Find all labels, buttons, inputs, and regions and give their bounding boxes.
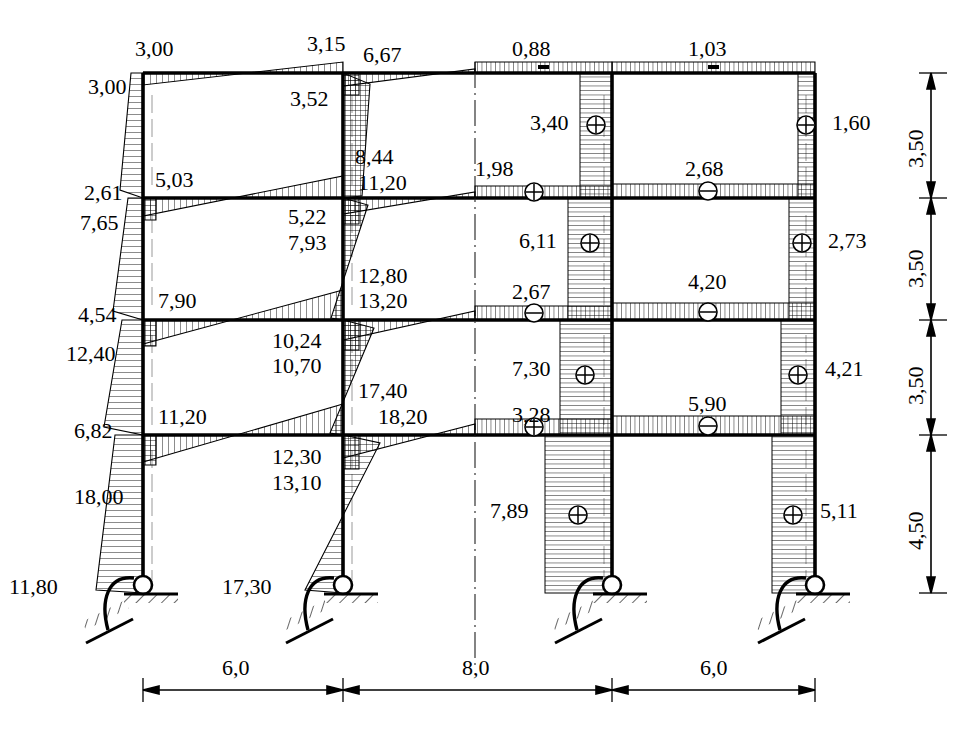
axial-col4-storey3 — [789, 198, 815, 320]
label-floor3-col2-below-a: 5,22 — [288, 206, 327, 228]
sign-col4-storey2 — [789, 366, 807, 384]
label-floor2-col1-above: 4,54 — [78, 304, 117, 326]
label-col4-storey3: 2,73 — [828, 230, 867, 252]
sign-col4-storey1 — [784, 506, 802, 524]
label-col3-storey1: 7,89 — [490, 500, 529, 522]
sign-beam-bay2-floor3 — [525, 183, 543, 201]
label-beam-bay3-floor3: 2,68 — [685, 158, 724, 180]
dim-height-2: 3,50 — [903, 250, 929, 289]
dim-height-3: 3,50 — [903, 367, 929, 406]
label-floor2-col2-below-b: 10,70 — [272, 355, 322, 377]
sign-col3-storey1 — [569, 506, 587, 524]
label-roof-beam-right-top: 3,15 — [307, 33, 346, 55]
diagram-canvas: 3,00 3,15 6,67 3,00 3,52 2,61 5,03 7,65 … — [0, 0, 974, 734]
label-roof-beam-left-top: 3,00 — [135, 38, 174, 60]
axial-col4-storey4 — [798, 73, 815, 198]
label-beam-bay2-floor2: 2,67 — [512, 281, 551, 303]
label-floor3-col2-above-a: 8,44 — [355, 146, 394, 168]
label-col3-storey3: 6,11 — [519, 230, 557, 252]
label-beam-bay3-floor2: 4,20 — [688, 271, 727, 293]
label-beam-bay2-floor3: 1,98 — [475, 158, 514, 180]
label-floor3-col1-above: 2,61 — [84, 182, 123, 204]
label-floor3-col2-above-b: 11,20 — [358, 172, 407, 194]
label-floor2-col2-below-a: 10,24 — [272, 330, 322, 352]
label-floor1-col1-above: 6,82 — [74, 420, 113, 442]
label-floor2-col2-above-b: 13,20 — [358, 290, 408, 312]
shear-beam-bay3-roof — [612, 62, 815, 73]
dim-height-1: 3,50 — [903, 130, 929, 169]
label-floor1-beam-left: 11,20 — [158, 406, 207, 428]
label-base-col1: 11,80 — [9, 576, 58, 598]
supports — [82, 576, 850, 643]
dim-height-4: 4,50 — [903, 512, 929, 551]
sign-col4-storey4 — [797, 116, 815, 134]
sign-col3-storey2 — [576, 366, 594, 384]
label-floor1-col2-below-b: 13,10 — [272, 472, 322, 494]
dim-span-2: 8,0 — [462, 655, 490, 681]
label-floor3-col1-below: 7,65 — [80, 212, 119, 234]
label-floor2-col2-above-a: 12,80 — [358, 265, 408, 287]
frame-skeleton — [143, 73, 815, 593]
sign-col3-storey3 — [581, 234, 599, 252]
label-floor1-col1-below: 18,00 — [74, 486, 124, 508]
shear-beam-bay2-roof — [475, 62, 612, 73]
sign-col4-storey3 — [793, 234, 811, 252]
label-beam-bay3-floor1: 5,90 — [688, 393, 727, 415]
dim-span-1: 6,0 — [222, 655, 250, 681]
label-col3-storey2: 7,30 — [512, 358, 551, 380]
moment-col1-storey1 — [96, 435, 143, 593]
label-floor1-col2-above-a: 17,40 — [358, 380, 408, 402]
label-base-col2: 17,30 — [222, 576, 272, 598]
label-col4-storey2: 4,21 — [825, 358, 864, 380]
label-floor3-col2-below-b: 7,93 — [288, 232, 327, 254]
label-col4-storey1: 5,11 — [820, 500, 858, 522]
label-floor2-beam-left: 7,90 — [158, 290, 197, 312]
label-floor1-col2-above-b: 18,20 — [378, 406, 428, 428]
sign-beam-bay2-floor2 — [525, 304, 543, 322]
label-roof-col1-left: 3,00 — [88, 76, 127, 98]
sign-beam-bay3-floor3 — [699, 182, 717, 200]
label-floor3-beam-left: 5,03 — [155, 169, 194, 191]
dimension-lines-horizontal — [143, 678, 815, 702]
label-beam-bay2-floor1: 3,28 — [512, 404, 551, 426]
sign-beam-bay3-floor1 — [699, 417, 717, 435]
label-roof-beam2-top: 6,67 — [363, 44, 402, 66]
label-col3-storey4: 3,40 — [530, 112, 569, 134]
axial-col3-storey3 — [568, 198, 612, 320]
label-floor2-col1-below: 12,40 — [66, 343, 116, 365]
label-roof-col2-below: 3,52 — [290, 88, 329, 110]
sign-col3-storey4 — [587, 116, 605, 134]
sign-beam-bay3-floor2 — [699, 303, 717, 321]
label-roof-beam-bay2: 0,88 — [512, 38, 551, 60]
moment-beam-bay1-roof — [143, 62, 343, 85]
axial-col3-storey4 — [580, 73, 612, 198]
label-col4-storey4: 1,60 — [832, 112, 871, 134]
label-floor1-col2-below-a: 12,30 — [272, 446, 322, 468]
dim-span-3: 6,0 — [700, 655, 728, 681]
label-roof-beam-bay3: 1,03 — [688, 38, 727, 60]
